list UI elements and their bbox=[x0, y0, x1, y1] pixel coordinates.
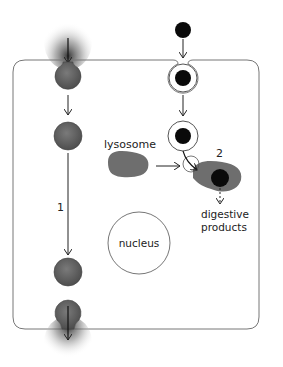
digestive-products-label-line1: digestive bbox=[201, 208, 249, 220]
diagram-canvas: 1 lysosome 2 digestive products nucleus bbox=[0, 0, 283, 367]
pathway-1: 1 bbox=[54, 38, 82, 340]
nucleus: nucleus bbox=[108, 212, 170, 274]
digestive-products-label-line2: products bbox=[201, 221, 247, 233]
particle bbox=[175, 128, 191, 144]
pathway-2-label: 2 bbox=[216, 147, 223, 160]
lysosome-label: lysosome bbox=[104, 138, 156, 151]
particle bbox=[175, 22, 191, 38]
pathway-1-label: 1 bbox=[57, 201, 64, 214]
pathway-2: lysosome 2 digestive products bbox=[104, 22, 249, 233]
cell-membrane bbox=[13, 60, 259, 329]
vesicle bbox=[54, 258, 82, 286]
vesicle bbox=[54, 122, 82, 150]
particle-digesting bbox=[211, 169, 229, 187]
particle bbox=[175, 70, 191, 86]
nucleus-label: nucleus bbox=[119, 237, 160, 249]
lysosome bbox=[108, 151, 148, 177]
